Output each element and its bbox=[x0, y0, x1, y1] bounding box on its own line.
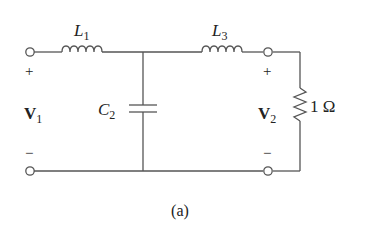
inductor-l1 bbox=[62, 46, 102, 52]
terminal-out-minus bbox=[264, 167, 272, 175]
label-v1: V1 bbox=[24, 104, 42, 126]
terminal-in-plus bbox=[26, 48, 34, 56]
label-c2: C2 bbox=[98, 100, 115, 122]
label-v2: V2 bbox=[258, 104, 276, 126]
label-v1-minus: − bbox=[25, 145, 33, 161]
label-v2-minus: − bbox=[263, 145, 271, 161]
label-l3: L3 bbox=[211, 21, 227, 43]
label-resistance: 1 Ω bbox=[310, 97, 335, 116]
resistor bbox=[294, 88, 306, 121]
label-v1-plus: + bbox=[25, 63, 33, 79]
terminal-out-plus bbox=[264, 48, 272, 56]
figure-caption: (a) bbox=[171, 202, 189, 220]
label-v2-plus: + bbox=[263, 63, 271, 79]
circuit-diagram: L1 L3 C2 1 Ω + V1 − + V2 − (a) bbox=[0, 0, 365, 237]
inductor-l3 bbox=[202, 46, 242, 52]
terminal-in-minus bbox=[26, 167, 34, 175]
label-l1: L1 bbox=[73, 21, 89, 43]
